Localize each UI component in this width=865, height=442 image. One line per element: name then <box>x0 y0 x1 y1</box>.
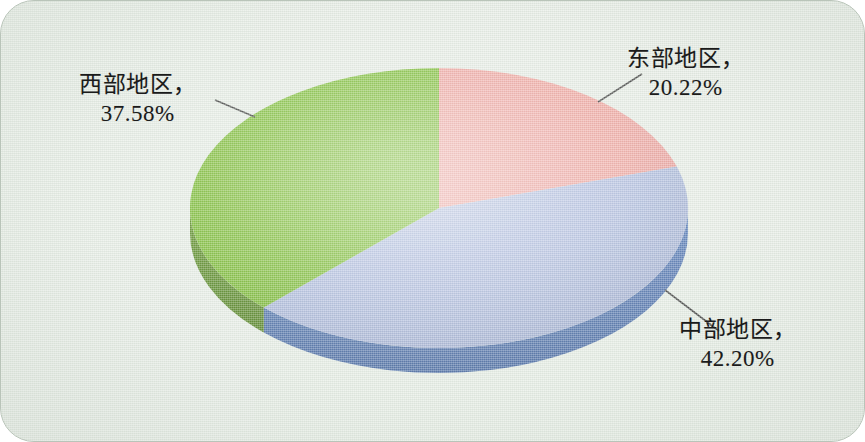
slice-label-mid-value: 42.20% <box>679 345 797 374</box>
pie-chart-figure: 东部地区， 20.22% 中部地区， 42.20% 西部地区， 37.58% <box>0 0 865 442</box>
slice-label-east: 东部地区， 20.22% <box>627 45 745 103</box>
pie-top-face <box>190 68 688 348</box>
slice-label-west-name: 西部地区， <box>79 72 197 97</box>
leader-line-west <box>215 100 255 117</box>
slice-label-west-value: 37.58% <box>79 100 197 129</box>
slice-label-east-name: 东部地区， <box>627 46 745 71</box>
pie-top-sheen <box>190 68 688 348</box>
slice-label-east-value: 20.22% <box>627 74 745 103</box>
slice-label-mid: 中部地区， 42.20% <box>679 316 797 374</box>
slice-label-west: 西部地区， 37.58% <box>79 71 197 129</box>
slice-label-mid-name: 中部地区， <box>679 317 797 342</box>
